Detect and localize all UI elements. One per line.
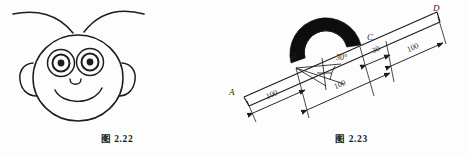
antenna-left-icon <box>13 12 73 33</box>
point-label-a: A <box>229 88 235 97</box>
eye-left-pupil-icon <box>58 60 65 67</box>
head-circle-icon <box>33 35 123 121</box>
bar-right-end <box>437 12 440 22</box>
dimension-line-arc-width <box>366 55 390 65</box>
eye-right-pupil-icon <box>87 59 94 66</box>
filled-arc-bend-icon <box>290 18 361 63</box>
witness-line-a <box>247 101 256 122</box>
point-label-c: C <box>367 33 373 42</box>
witness-line-d <box>438 17 446 44</box>
figure-2-22-caption: 图 2.22 <box>0 131 234 145</box>
angle-label-at-b: 30° <box>336 54 347 62</box>
mouth-icon <box>55 88 102 101</box>
point-label-d: D <box>433 4 440 13</box>
nose-icon <box>70 79 81 84</box>
figure-2-23: A B C D 30° 100 100 30 100 图 2.23 <box>234 0 469 156</box>
witness-line-arc-right <box>386 41 394 82</box>
antenna-right-icon <box>84 11 144 32</box>
figure-2-23-caption: 图 2.23 <box>234 131 469 145</box>
figure-2-22: 图 2.22 <box>0 0 234 156</box>
dimension-line-ab <box>253 90 305 113</box>
bee-drawing <box>0 0 234 130</box>
dimension-drawing <box>234 0 469 130</box>
screenshot-root: 图 2.22 <box>0 0 469 156</box>
point-label-b: B <box>291 52 297 61</box>
dimension-line-bc <box>307 73 390 110</box>
